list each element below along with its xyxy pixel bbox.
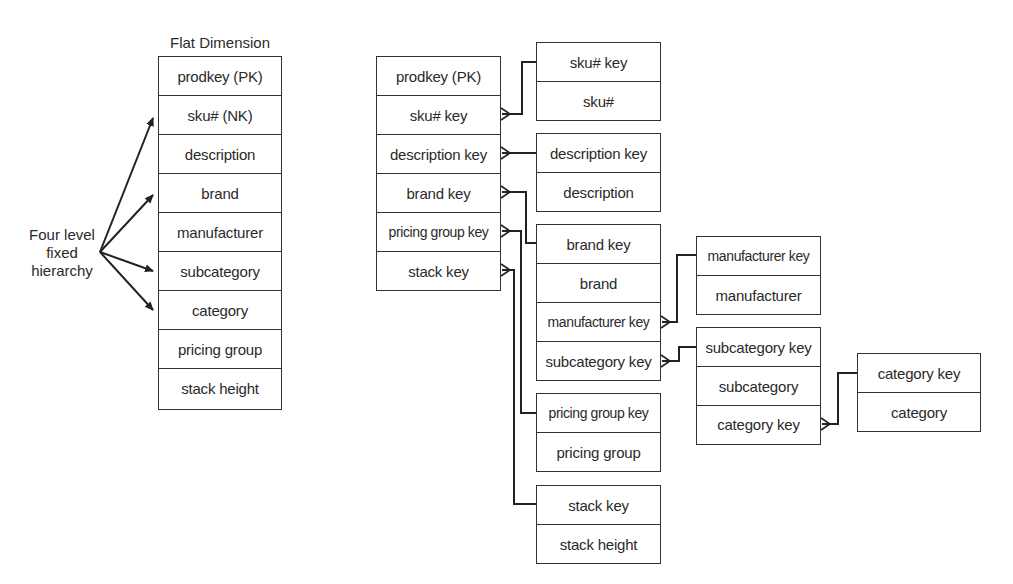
brand-row-value: brand [537, 264, 660, 303]
subcategory-row-category-key: category key [697, 406, 820, 443]
product-table: prodkey (PK) sku# key description key br… [376, 56, 501, 291]
sku-row-key: sku# key [537, 43, 660, 82]
flat-row-pricing-group: pricing group [159, 330, 281, 369]
product-row-sku-key: sku# key [377, 96, 500, 135]
subcategory-table: subcategory key subcategory category key [696, 327, 821, 445]
hierarchy-arrows [100, 118, 153, 310]
annotation-line-1: Four level [22, 226, 102, 244]
description-row-value: description [537, 173, 660, 211]
stack-table: stack key stack height [536, 485, 661, 564]
flat-dimension-title: Flat Dimension [158, 34, 282, 52]
subcategory-row-key: subcategory key [697, 328, 820, 367]
hierarchy-annotation: Four level fixed hierarchy [22, 226, 102, 280]
flat-row-prodkey: prodkey (PK) [159, 57, 281, 96]
connector-lines [0, 0, 1013, 584]
pricing-group-row-value: pricing group [537, 433, 660, 471]
sku-table: sku# key sku# [536, 42, 661, 121]
flat-row-description: description [159, 135, 281, 174]
category-row-key: category key [858, 354, 980, 393]
annotation-line-3: hierarchy [22, 262, 102, 280]
manufacturer-table: manufacturer key manufacturer [696, 236, 821, 315]
description-row-key: description key [537, 134, 660, 173]
brand-row-manufacturer-key: manufacturer key [537, 303, 660, 342]
description-table: description key description [536, 133, 661, 212]
product-row-pricing-group-key: pricing group key [377, 213, 500, 252]
product-row-description-key: description key [377, 135, 500, 174]
manufacturer-row-value: manufacturer [697, 276, 820, 314]
manufacturer-row-key: manufacturer key [697, 237, 820, 276]
flat-row-subcategory: subcategory [159, 252, 281, 291]
subcategory-row-value: subcategory [697, 367, 820, 406]
pricing-group-table: pricing group key pricing group [536, 393, 661, 472]
category-table: category key category [857, 353, 981, 432]
brand-row-key: brand key [537, 225, 660, 264]
stack-row-key: stack key [537, 486, 660, 525]
product-row-stack-key: stack key [377, 252, 500, 291]
sku-row-value: sku# [537, 82, 660, 120]
flat-row-manufacturer: manufacturer [159, 213, 281, 252]
brand-table: brand key brand manufacturer key subcate… [536, 224, 661, 381]
pricing-group-row-key: pricing group key [537, 394, 660, 433]
flat-row-category: category [159, 291, 281, 330]
product-row-prodkey: prodkey (PK) [377, 57, 500, 96]
brand-row-subcategory-key: subcategory key [537, 342, 660, 380]
product-row-brand-key: brand key [377, 174, 500, 213]
flat-row-stack-height: stack height [159, 369, 281, 408]
flat-row-brand: brand [159, 174, 281, 213]
category-row-value: category [858, 393, 980, 431]
flat-dimension-table: prodkey (PK) sku# (NK) description brand… [158, 56, 282, 410]
annotation-line-2: fixed [22, 244, 102, 262]
flat-row-sku: sku# (NK) [159, 96, 281, 135]
stack-row-height: stack height [537, 525, 660, 563]
